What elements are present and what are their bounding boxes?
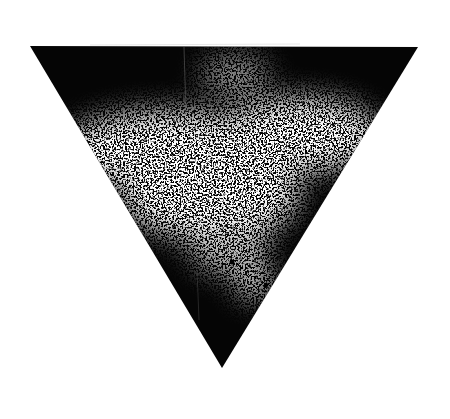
- triangle-print-image: [0, 0, 450, 419]
- ink-dot: [241, 267, 243, 269]
- ink-dot: [264, 283, 268, 287]
- ink-dot: [230, 260, 235, 265]
